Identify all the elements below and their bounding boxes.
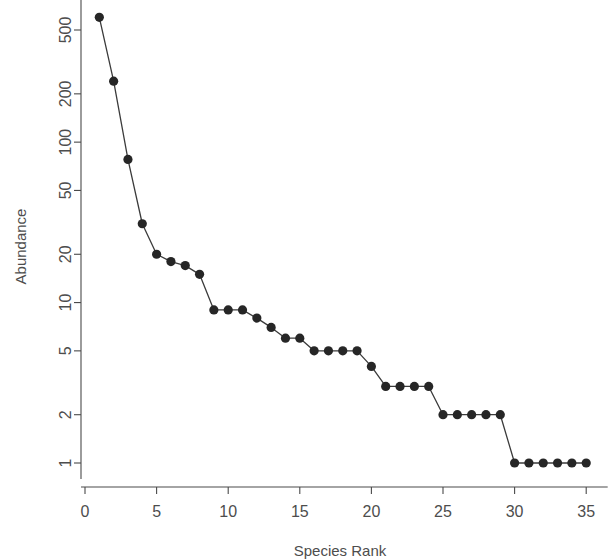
y-tick-label: 200: [57, 80, 74, 107]
data-point: [510, 458, 519, 467]
data-point: [267, 323, 276, 332]
data-point: [138, 219, 147, 228]
data-point: [123, 155, 132, 164]
data-point: [338, 346, 347, 355]
data-point: [567, 458, 576, 467]
chart-canvas: 12510205010020050005101520253035Abundanc…: [0, 0, 614, 560]
rank-abundance-plot: 12510205010020050005101520253035Abundanc…: [0, 0, 614, 560]
data-point: [324, 346, 333, 355]
data-point: [352, 346, 361, 355]
y-tick-label: 20: [57, 245, 74, 263]
data-point: [467, 410, 476, 419]
data-point: [438, 410, 447, 419]
y-tick-label: 500: [57, 17, 74, 44]
x-tick-label: 0: [81, 503, 90, 520]
data-point: [481, 410, 490, 419]
data-point: [252, 314, 261, 323]
data-point: [410, 382, 419, 391]
x-tick-label: 20: [363, 503, 381, 520]
data-point: [524, 458, 533, 467]
x-tick-label: 15: [291, 503, 309, 520]
data-point: [295, 334, 304, 343]
y-tick-label: 50: [57, 181, 74, 199]
data-point: [224, 305, 233, 314]
x-tick-label: 5: [152, 503, 161, 520]
data-point: [496, 410, 505, 419]
data-point: [166, 257, 175, 266]
x-tick-label: 30: [506, 503, 524, 520]
data-point: [181, 261, 190, 270]
y-tick-label: 1: [57, 458, 74, 467]
data-point: [95, 13, 104, 22]
data-point: [424, 382, 433, 391]
data-point: [582, 458, 591, 467]
data-point: [453, 410, 462, 419]
y-tick-label: 5: [57, 346, 74, 355]
data-point: [238, 305, 247, 314]
data-point: [539, 458, 548, 467]
x-tick-label: 10: [219, 503, 237, 520]
abundance-line: [99, 17, 586, 463]
y-tick-label: 2: [57, 410, 74, 419]
y-axis-title: Abundance: [12, 209, 29, 285]
data-point: [209, 305, 218, 314]
data-point: [367, 362, 376, 371]
data-point: [281, 334, 290, 343]
data-point: [310, 346, 319, 355]
data-point: [195, 270, 204, 279]
x-tick-label: 35: [577, 503, 595, 520]
data-point: [395, 382, 404, 391]
data-point: [109, 77, 118, 86]
x-axis-title: Species Rank: [294, 542, 387, 559]
data-point: [381, 382, 390, 391]
y-tick-label: 10: [57, 294, 74, 312]
data-point: [152, 250, 161, 259]
y-tick-label: 100: [57, 129, 74, 156]
x-tick-label: 25: [434, 503, 452, 520]
data-point: [553, 458, 562, 467]
